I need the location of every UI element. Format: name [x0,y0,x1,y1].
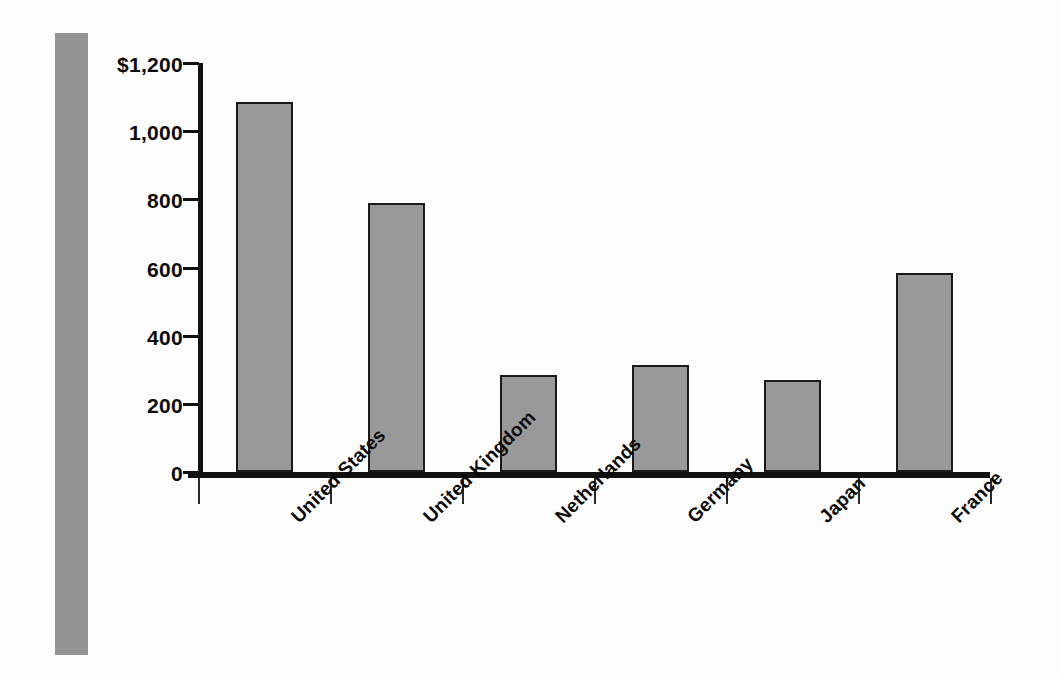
y-tick-label: 400 [147,326,183,350]
x-axis-divider [198,478,200,504]
category-label-netherlands: Netherlands [551,433,646,528]
y-tick-label: 1,000 [129,121,183,145]
y-tick-mark [183,198,199,201]
bar-japan[interactable] [764,380,821,472]
y-tick-mark [183,130,199,133]
y-tick-mark [183,335,199,338]
plot-area: $1,2001,0008006004002000 United StatesUn… [198,63,990,472]
y-tick-label: 200 [147,394,183,418]
y-tick-label: 0 [171,462,183,486]
chart-page: $1,2001,0008006004002000 United StatesUn… [0,0,1060,679]
left-gray-spine [55,33,88,655]
bar-united-states[interactable] [236,102,293,472]
y-tick-label: 600 [147,258,183,282]
y-tick-mark [183,403,199,406]
y-tick-mark [183,62,199,65]
bar-germany[interactable] [632,365,689,472]
category-label-germany: Germany [683,453,758,528]
category-label-japan: Japan [815,472,870,527]
bar-france[interactable] [896,273,953,472]
y-tick-label: 800 [147,189,183,213]
y-tick-mark [183,267,199,270]
y-tick-label: $1,200 [117,53,183,77]
y-tick-mark [183,471,199,474]
